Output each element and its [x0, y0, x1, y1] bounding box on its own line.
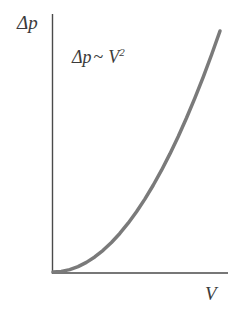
annotation-exponent: 2: [119, 46, 125, 58]
curve-annotation: Δp~V2: [72, 47, 125, 66]
annotation-base: Δp: [72, 47, 92, 67]
x-axis-label: V: [205, 284, 217, 303]
annotation-relation: ~: [92, 47, 106, 67]
y-axis-label: Δp: [17, 13, 38, 32]
figure-canvas: Δp V Δp~V2: [0, 0, 238, 318]
data-curve-quadratic: [53, 31, 220, 272]
annotation-variable: V: [105, 47, 119, 67]
